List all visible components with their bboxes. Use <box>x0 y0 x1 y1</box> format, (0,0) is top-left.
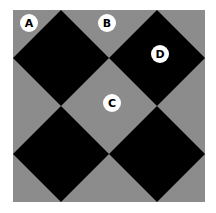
marker-c: C <box>103 94 121 112</box>
marker-label: B <box>103 17 111 30</box>
marker-label: C <box>108 97 116 110</box>
marker-b: B <box>98 14 116 32</box>
marker-label: D <box>155 48 164 61</box>
checker-diamond-diagram: A B C D <box>0 0 216 213</box>
marker-d: D <box>151 45 169 63</box>
marker-a: A <box>20 14 38 32</box>
marker-label: A <box>25 17 34 30</box>
